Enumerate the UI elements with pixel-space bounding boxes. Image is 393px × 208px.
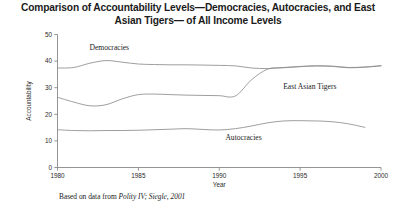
line-chart-svg: 0102030405019801985199019952000YearAccou… [0,0,393,208]
source-prefix: Based on data from [59,192,119,201]
series-label-autocracies: Autocracies [225,133,261,142]
chart-plot-area: 0102030405019801985199019952000YearAccou… [0,0,393,208]
series-line-democracies [58,61,382,69]
series-label-east-asian-tigers: East Asian Tigers [283,82,336,91]
source-note: Based on data from Polity IV; Siegle, 20… [59,192,185,201]
y-axis-tick-label: 0 [48,164,52,171]
y-axis-tick-label: 50 [45,31,53,38]
series-line-autocracies [58,121,365,131]
x-axis-tick-label: 1980 [50,172,65,179]
series-group [58,61,382,131]
x-axis-title: Year [213,181,227,188]
series-annotations: DemocraciesEast Asian TigersAutocracies [89,43,336,142]
x-axis-tick-label: 1995 [293,172,308,179]
y-axis-tick-label: 40 [45,57,53,64]
x-axis-tick-label: 2000 [374,172,389,179]
y-axis-tick-label: 30 [45,84,53,91]
x-axis-tick-label: 1990 [212,172,227,179]
x-axis-tick-label: 1985 [131,172,146,179]
source-citation: Polity IV; Siegle, 2001 [119,192,186,201]
chart-page: Comparison of Accountability Levels—Demo… [0,0,393,208]
y-axis-tick-label: 10 [45,137,53,144]
y-axis-tick-label: 20 [45,111,53,118]
y-axis-title: Accountability [25,80,33,120]
series-label-democracies: Democracies [89,43,129,52]
axes-group: 0102030405019801985199019952000YearAccou… [25,31,389,188]
